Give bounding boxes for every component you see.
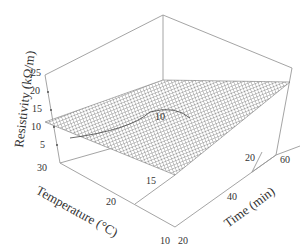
temperature-axis-title: Temperature (°C) <box>34 183 121 240</box>
z-axis-title: Resistivity (kΩ/m) <box>11 50 38 149</box>
time-tick-60: 60 <box>280 154 290 165</box>
temperature-tick-10: 10 <box>160 235 170 246</box>
z-tick-10: 10 <box>31 121 41 132</box>
contour-label-10: 10 <box>155 111 165 122</box>
z-tick-15: 15 <box>32 103 42 114</box>
time-tick-40: 40 <box>227 191 237 202</box>
temperature-tick-30: 30 <box>37 162 47 173</box>
temperature-tick-20: 20 <box>106 196 116 207</box>
surface-plot: 5 10 15 20 25 30 20 10 20 40 60 10 15 20… <box>0 0 305 250</box>
contour-label-15: 15 <box>146 175 156 186</box>
contour-label-20: 20 <box>245 152 255 163</box>
time-tick-20: 20 <box>178 235 188 246</box>
z-tick-5: 5 <box>40 139 45 150</box>
